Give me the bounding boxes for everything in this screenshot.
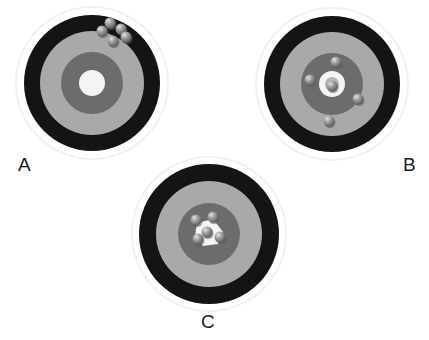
shot-hole (208, 212, 219, 223)
shot-hole (191, 215, 202, 226)
target-a (16, 7, 168, 159)
shot-hole (193, 234, 204, 245)
shot-hole (324, 116, 335, 127)
shot-hole (327, 81, 338, 92)
shot-hole (108, 36, 119, 47)
shot-hole (202, 227, 213, 238)
target-a-label: A (18, 155, 31, 174)
shot-hole (97, 26, 108, 37)
target-c-label: C (201, 312, 215, 331)
target-b (256, 8, 408, 160)
shot-hole (331, 57, 342, 68)
target-c (132, 157, 286, 311)
shot-hole (353, 94, 364, 105)
shot-hole (305, 75, 316, 86)
target-b-label: B (403, 155, 416, 174)
shot-hole (121, 32, 132, 43)
bullseye (79, 70, 105, 96)
shot-hole (105, 18, 116, 29)
shot-hole (215, 232, 226, 243)
targets-diagram (0, 0, 429, 340)
